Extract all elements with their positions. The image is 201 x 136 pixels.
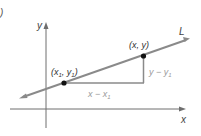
point-x1-y1 (61, 80, 66, 85)
x-axis (10, 107, 186, 112)
slope-diagram: ) x y L (x1, y1) (x, y) x − x1 y − y1 (0, 0, 201, 136)
rise-label: y − y1 (148, 67, 172, 78)
y-axis-arrow-icon (44, 22, 49, 29)
line-label: L (179, 26, 185, 37)
point-x-y (141, 53, 146, 58)
line-arrow-left-icon (19, 94, 28, 99)
panel-marker: ) (0, 7, 3, 18)
y-axis (44, 22, 49, 128)
run-label: x − x1 (87, 89, 111, 100)
y-axis-label: y (36, 20, 43, 31)
point2-label: (x, y) (129, 40, 149, 50)
x-axis-label: x (180, 114, 187, 125)
x-axis-arrow-icon (179, 107, 186, 112)
point1-label: (x1, y1) (51, 67, 78, 78)
